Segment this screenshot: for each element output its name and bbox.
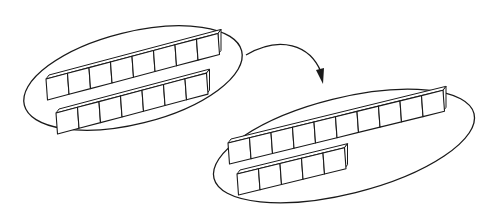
unit-cube bbox=[280, 158, 303, 184]
unit-cube bbox=[379, 101, 402, 127]
unit-cube bbox=[293, 122, 316, 148]
unit-cube bbox=[422, 90, 445, 116]
unit-cube bbox=[250, 132, 273, 158]
regrouping-diagram bbox=[0, 0, 489, 219]
unit-cube bbox=[237, 169, 260, 195]
unit-cube bbox=[271, 127, 294, 153]
group-before bbox=[13, 6, 253, 149]
unit-cube bbox=[336, 111, 359, 137]
unit-cube bbox=[259, 163, 282, 189]
unit-cube bbox=[323, 148, 346, 174]
arrowhead-icon bbox=[316, 68, 324, 84]
curved-arrow bbox=[246, 44, 324, 84]
group-after bbox=[202, 67, 485, 219]
curved-arrow-icon bbox=[246, 44, 321, 72]
unit-cube bbox=[302, 153, 325, 179]
unit-cube bbox=[357, 106, 380, 132]
unit-cube bbox=[228, 138, 251, 164]
unit-cube bbox=[400, 96, 423, 122]
unit-cube bbox=[314, 117, 337, 143]
